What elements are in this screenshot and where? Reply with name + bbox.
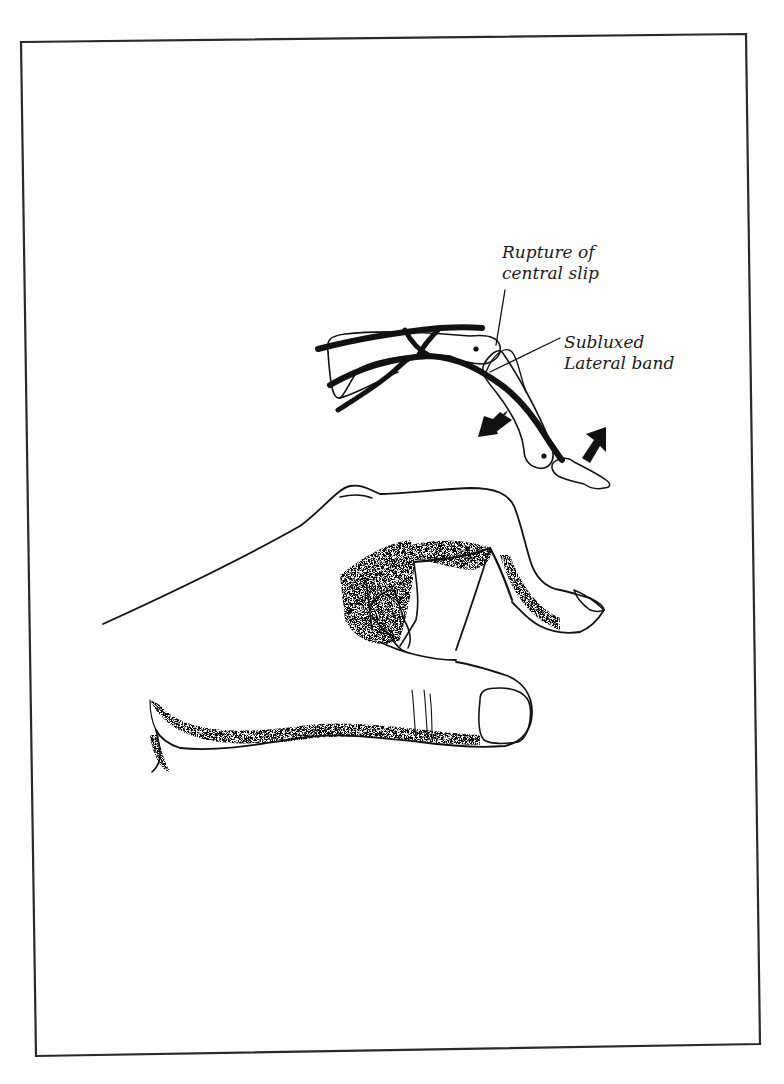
knuckle-fold [340, 495, 372, 498]
label-rupture-of-central-slip: Rupture of central slip [502, 242, 599, 284]
distal-phalanx-outline [552, 458, 610, 489]
arrow-up-right-icon [582, 427, 606, 463]
figure-frame [21, 34, 760, 1056]
arrow-down-left-icon [478, 410, 512, 437]
joint-dot-dip [541, 453, 546, 458]
label-lateral-line1: Subluxed [564, 332, 674, 353]
palm-fold-line [380, 642, 456, 660]
label-subluxed-lateral-band: Subluxed Lateral band [564, 332, 674, 374]
joint-dot-pip [473, 346, 478, 351]
middle-phalanx-outline [483, 351, 553, 469]
thumbnail [479, 688, 531, 743]
fingernail-upper [574, 590, 604, 612]
leader-lateral-band [490, 338, 560, 372]
label-lateral-line2: Lateral band [564, 353, 674, 374]
label-rupture-line1: Rupture of [502, 242, 599, 263]
extensor-tendon-top [318, 327, 482, 349]
leader-rupture [496, 290, 505, 345]
label-rupture-line2: central slip [502, 263, 599, 284]
hand-stipple-shading [150, 540, 560, 772]
hand-illustration [103, 486, 604, 772]
lateral-band-thick [330, 356, 562, 460]
anatomy-inset [318, 290, 610, 489]
figure-canvas [0, 0, 784, 1084]
